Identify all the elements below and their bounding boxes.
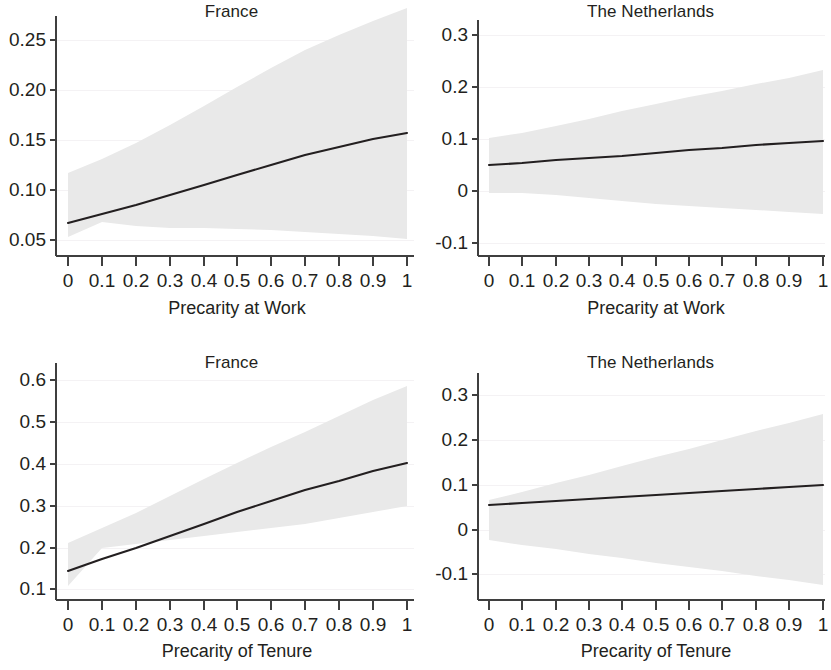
ytick-label: 0.1 — [0, 578, 46, 600]
xtick-label: 0.2 — [123, 270, 149, 292]
xtick-label: 0.8 — [326, 614, 352, 636]
xtick-label: 1 — [402, 614, 413, 636]
xtick-label: 0.5 — [224, 270, 250, 292]
panel-france-precarity-of-tenure: France — [0, 335, 420, 670]
ytick-label: 0.10 — [0, 179, 46, 201]
xaxis-title: Precarity at Work — [168, 298, 306, 319]
xtick-label: 0.9 — [360, 270, 386, 292]
confidence-band — [489, 70, 823, 214]
ytick-label: 0.2 — [0, 537, 46, 559]
xtick-label: 0.2 — [123, 614, 149, 636]
ytick-label: 0.20 — [0, 79, 46, 101]
xtick-label: 1 — [818, 270, 829, 292]
xtick-label: 0.1 — [509, 270, 535, 292]
ytick-label: 0.3 — [420, 24, 468, 46]
xtick-label: 0.6 — [258, 270, 284, 292]
xaxis-title: Precarity of Tenure — [162, 641, 313, 662]
ytick-label: 0.1 — [420, 474, 468, 496]
figure-panel-grid: France — [0, 0, 831, 670]
xaxis-title: Precarity at Work — [587, 298, 725, 319]
xtick-label: 1 — [818, 614, 829, 636]
ytick-label: -0.1 — [420, 563, 468, 585]
xtick-label: 0 — [63, 614, 74, 636]
xtick-label: 0.9 — [360, 614, 386, 636]
ytick-label: 0 — [420, 180, 468, 202]
xtick-label: 1 — [402, 270, 413, 292]
confidence-band — [68, 8, 407, 239]
xtick-label: 0.3 — [157, 270, 183, 292]
panel-netherlands-precarity-at-work: The Netherlands — [420, 0, 831, 335]
xtick-label: 0 — [63, 270, 74, 292]
xtick-label: 0.9 — [776, 614, 802, 636]
xtick-label: 0.6 — [676, 270, 702, 292]
ytick-label: 0.4 — [0, 453, 46, 475]
panel-france-precarity-at-work: France — [0, 0, 420, 335]
xtick-label: 0.3 — [157, 614, 183, 636]
xtick-label: 0.2 — [543, 614, 569, 636]
xtick-label: 0.8 — [743, 614, 769, 636]
xtick-label: 0.3 — [576, 270, 602, 292]
panel-netherlands-precarity-of-tenure: The Netherlands — [420, 335, 831, 670]
ytick-label: 0.25 — [0, 29, 46, 51]
xtick-label: 0.4 — [191, 270, 217, 292]
xtick-label: 0.7 — [709, 270, 735, 292]
xtick-label: 0 — [484, 614, 495, 636]
confidence-band — [68, 386, 407, 586]
xtick-label: 0.5 — [643, 270, 669, 292]
ytick-label: 0.1 — [420, 128, 468, 150]
ytick-label: 0.2 — [420, 76, 468, 98]
ytick-label: -0.1 — [420, 232, 468, 254]
xtick-label: 0.7 — [709, 614, 735, 636]
ytick-label: 0.15 — [0, 129, 46, 151]
ytick-label: 0.2 — [420, 429, 468, 451]
ytick-label: 0.3 — [0, 495, 46, 517]
xtick-label: 0.4 — [609, 614, 635, 636]
ytick-label: 0.6 — [0, 369, 46, 391]
xtick-label: 0.1 — [89, 270, 115, 292]
ytick-label: 0.05 — [0, 229, 46, 251]
xtick-label: 0.6 — [258, 614, 284, 636]
xtick-label: 0.6 — [676, 614, 702, 636]
xtick-label: 0.3 — [576, 614, 602, 636]
ytick-label: 0 — [420, 519, 468, 541]
xtick-label: 0.9 — [776, 270, 802, 292]
xtick-label: 0.8 — [743, 270, 769, 292]
ytick-label: 0.3 — [420, 384, 468, 406]
xtick-label: 0.5 — [224, 614, 250, 636]
xtick-label: 0 — [484, 270, 495, 292]
xtick-label: 0.2 — [543, 270, 569, 292]
xaxis-title: Precarity of Tenure — [581, 641, 732, 662]
xtick-label: 0.4 — [191, 614, 217, 636]
xtick-label: 0.7 — [292, 270, 318, 292]
ytick-label: 0.5 — [0, 411, 46, 433]
xtick-label: 0.4 — [609, 270, 635, 292]
xtick-label: 0.1 — [509, 614, 535, 636]
xtick-label: 0.7 — [292, 614, 318, 636]
xtick-label: 0.5 — [643, 614, 669, 636]
xtick-label: 0.8 — [326, 270, 352, 292]
xtick-label: 0.1 — [89, 614, 115, 636]
